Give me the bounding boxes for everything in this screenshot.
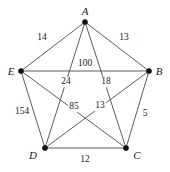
graph-edge-ab (85, 22, 149, 71)
edge-weight-ec: 85 (68, 102, 80, 112)
vertex-label-c: C (133, 150, 140, 161)
vertex-label-b: B (156, 66, 163, 77)
graph-canvas (0, 0, 170, 172)
edge-weight-ed: 154 (14, 107, 30, 117)
edge-weight-ac: 18 (100, 77, 112, 87)
vertex-label-a: A (82, 6, 89, 17)
graph-vertex-b (146, 68, 151, 73)
weighted-graph-figure: 141310024188513154512ABCDE (0, 0, 170, 172)
edge-weight-bd: 13 (94, 101, 106, 111)
edge-weight-eb: 100 (77, 59, 93, 69)
edge-weight-ad: 24 (60, 77, 72, 87)
graph-vertex-d (42, 145, 47, 150)
graph-vertex-e (18, 68, 23, 73)
graph-vertex-a (82, 19, 87, 24)
edge-weight-dc: 12 (79, 155, 91, 165)
edge-weight-bc: 5 (142, 109, 149, 119)
edge-weight-ab: 13 (118, 33, 130, 43)
vertex-label-d: D (29, 150, 37, 161)
graph-edge-ea (21, 22, 85, 71)
vertex-label-e: E (8, 66, 15, 77)
edge-weight-ea: 14 (36, 33, 48, 43)
graph-vertex-c (123, 145, 128, 150)
